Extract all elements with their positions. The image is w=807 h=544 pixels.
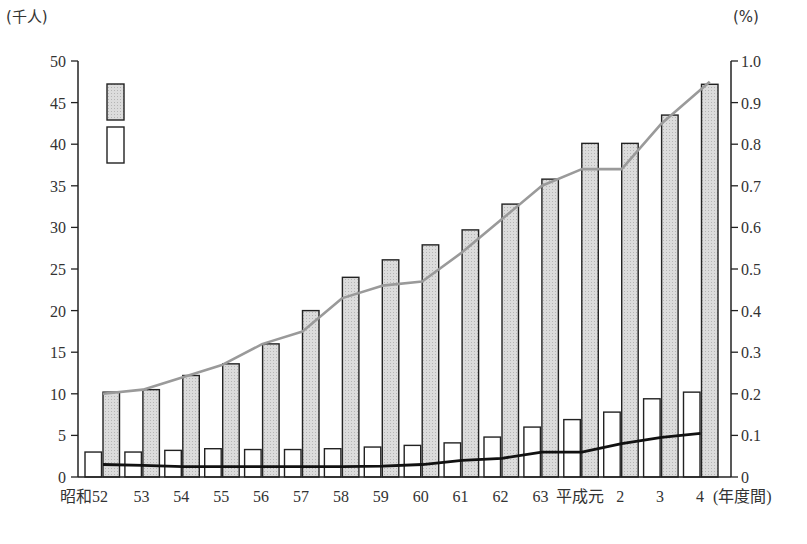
legend-swatch-gray — [107, 84, 124, 120]
x-tick-label: 3 — [656, 488, 664, 505]
left-tick-label: 50 — [50, 53, 66, 70]
gray-bar — [662, 115, 679, 477]
right-tick-label: 0.2 — [741, 386, 761, 403]
x-tick-label: 53 — [133, 488, 149, 505]
left-tick-label: 35 — [50, 178, 66, 195]
left-tick-label: 45 — [50, 95, 66, 112]
x-tick-label: 2 — [616, 488, 624, 505]
right-axis-unit-label: (%) — [733, 8, 759, 26]
x-axis: 昭和525354555657585960616263平成元234(年度間) — [60, 477, 772, 506]
x-tick-label: 63 — [532, 488, 548, 505]
left-tick-label: 40 — [50, 136, 66, 153]
right-tick-label: 0.8 — [741, 136, 761, 153]
gray-bar — [263, 344, 280, 477]
right-tick-label: 0.6 — [741, 219, 761, 236]
gray-bar — [303, 311, 320, 477]
white-bar — [245, 450, 262, 477]
bar-series — [85, 84, 718, 477]
right-tick-label: 0.1 — [741, 427, 761, 444]
white-bar — [85, 452, 102, 477]
gray-bar — [183, 375, 200, 477]
gray-bar — [342, 277, 359, 477]
right-tick-label: 0 — [741, 469, 749, 486]
white-bar — [285, 450, 302, 477]
left-tick-label: 25 — [50, 261, 66, 278]
x-tick-label: 62 — [493, 488, 509, 505]
legend-swatch-white — [107, 127, 124, 163]
x-tick-label: 平成元 — [556, 488, 604, 505]
gray-bar — [502, 204, 519, 477]
left-tick-label: 0 — [58, 469, 66, 486]
right-tick-label: 0.7 — [741, 178, 761, 195]
gray-bar — [382, 260, 399, 477]
left-tick-label: 10 — [50, 386, 66, 403]
x-tick-label: 56 — [253, 488, 269, 505]
left-y-axis: 05101520253035404550 — [50, 53, 78, 486]
left-axis-unit-label: (千人) — [6, 8, 48, 26]
white-bar — [564, 420, 581, 477]
gray-bar — [542, 179, 559, 477]
left-tick-label: 5 — [58, 427, 66, 444]
x-tick-label: 55 — [213, 488, 229, 505]
x-tick-label: 54 — [173, 488, 189, 505]
combo-chart: 05101520253035404550 00.10.20.30.40.50.6… — [0, 0, 807, 544]
gray-bar — [702, 84, 719, 477]
white-bar — [404, 445, 421, 477]
gray-bar — [223, 364, 240, 477]
x-tick-label: 4 — [696, 488, 704, 505]
x-tick-label: 61 — [453, 488, 469, 505]
x-tick-label: 58 — [333, 488, 349, 505]
right-tick-label: 0.3 — [741, 344, 761, 361]
x-tick-label: 59 — [373, 488, 389, 505]
right-tick-label: 0.9 — [741, 95, 761, 112]
gray-bar — [582, 143, 599, 477]
white-bar — [205, 449, 222, 477]
right-tick-label: 0.5 — [741, 261, 761, 278]
white-bar — [165, 450, 182, 477]
white-bar — [364, 447, 381, 477]
left-tick-label: 30 — [50, 219, 66, 236]
x-tick-label: 57 — [293, 488, 309, 505]
right-tick-label: 1.0 — [741, 53, 761, 70]
right-tick-label: 0.4 — [741, 303, 761, 320]
right-y-axis: 00.10.20.30.40.50.60.70.80.91.0 — [731, 53, 761, 486]
gray-bar — [622, 143, 639, 477]
gray-ratio-line — [103, 82, 710, 394]
gray-bar — [462, 230, 479, 477]
white-bar — [484, 437, 501, 477]
x-tick-label: 昭和52 — [60, 488, 108, 505]
gray-bar — [143, 390, 160, 477]
left-tick-label: 15 — [50, 344, 66, 361]
x-tick-label: 60 — [413, 488, 429, 505]
legend — [107, 84, 124, 163]
left-tick-label: 20 — [50, 303, 66, 320]
x-axis-suffix-label: (年度間) — [713, 488, 772, 506]
white-bar — [324, 449, 341, 477]
